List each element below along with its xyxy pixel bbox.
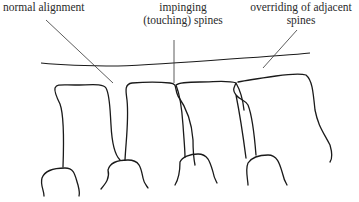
leader-normal [46, 20, 113, 83]
spinous-process-4 [234, 74, 332, 162]
spine-diagram [0, 0, 359, 202]
skin-line [41, 53, 310, 66]
vertebral-body-2 [101, 160, 148, 189]
spinous-process-1 [55, 85, 120, 167]
vertebral-body-4 [247, 155, 287, 185]
vertebral-body-1 [41, 168, 79, 196]
vertebral-body-3 [175, 154, 217, 185]
leader-overriding [263, 30, 297, 68]
